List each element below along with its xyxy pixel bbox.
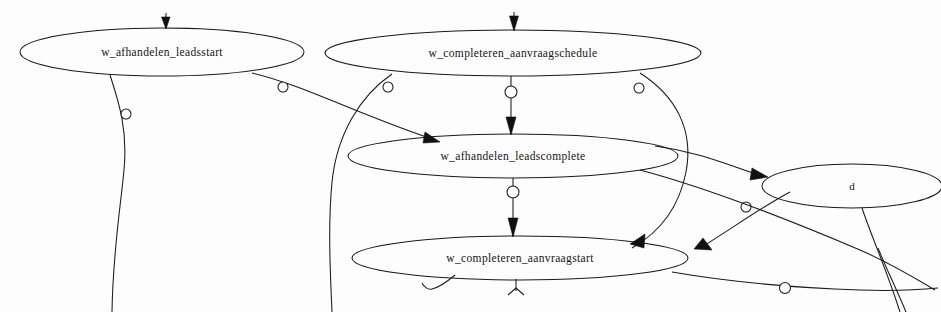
edge-aanvraagstart-bottom-fork-right xyxy=(516,288,524,295)
edge-marker-circle-leadsstart-down xyxy=(121,109,131,119)
edge-leadscomplete-to-d xyxy=(655,146,762,176)
edge-marker-circle-bottom-right xyxy=(780,283,791,294)
arrowhead-leadscomplete-to-d xyxy=(750,168,768,180)
edge-leadsstart-to-leadscomplete xyxy=(252,73,432,139)
edge-marker-circle-leadsstart-to-leadscomplete xyxy=(278,82,288,92)
edge-leadscomplete-right-sweep-out xyxy=(640,170,935,290)
edge-marker-circle-aanvraagschedule-left xyxy=(383,82,393,92)
graph-svg xyxy=(0,0,941,312)
arrowhead-source-to-leadsstart xyxy=(162,17,171,29)
edge-marker-circle-leadscomplete-to-aanvraagstart xyxy=(507,186,519,198)
arrowhead-d-to-aanvraagstart xyxy=(694,238,712,250)
arrowhead-aanvraagschedule-to-leadscomplete xyxy=(506,117,516,135)
node-ellipse-d[interactable] xyxy=(762,164,941,208)
arrowhead-aanvraagschedule-to-aanvraagstart xyxy=(630,234,645,248)
edge-d-to-aanvraagstart xyxy=(700,192,790,248)
node-ellipse-w-afhandelen-leadscomplete[interactable] xyxy=(348,134,678,178)
arrowhead-leadsstart-to-leadscomplete xyxy=(423,132,440,143)
edge-crossing-strand-out xyxy=(878,248,906,312)
edge-marker-circle-aanvraagschedule-to-aanvraagstart xyxy=(634,83,644,93)
edge-aanvraagschedule-to-aanvraagstart xyxy=(632,73,688,248)
arrowhead-source-to-aanvraagschedule xyxy=(510,16,519,31)
edge-marker-circle-aanvraagschedule-to-leadscomplete xyxy=(505,86,517,98)
process-graph-canvas: w_afhandelen_leadsstart w_completeren_aa… xyxy=(0,0,941,312)
node-ellipse-w-completeren-aanvraagschedule[interactable] xyxy=(325,30,701,76)
edge-aanvraagstart-bottom-fork-left xyxy=(508,288,516,295)
arrowhead-leadscomplete-to-aanvraagstart xyxy=(508,218,518,237)
edge-aanvraagschedule-left-down-out xyxy=(330,74,392,312)
edge-aanvraagstart-right-out xyxy=(672,272,938,290)
node-ellipse-w-afhandelen-leadsstart[interactable] xyxy=(20,28,304,76)
edge-d-down-out xyxy=(862,208,900,312)
